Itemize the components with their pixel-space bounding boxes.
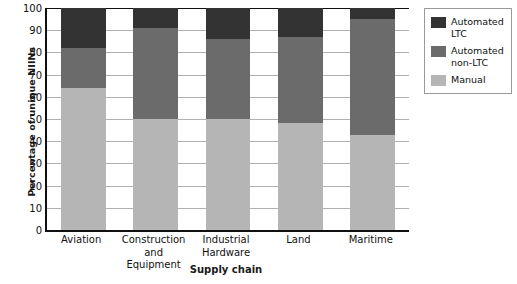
legend-label: Automated LTC bbox=[451, 16, 506, 40]
legend-swatch-icon bbox=[431, 75, 446, 86]
y-tick-label: 40 bbox=[14, 136, 42, 147]
bar-stack[interactable] bbox=[350, 8, 395, 230]
legend-item[interactable]: Manual bbox=[431, 74, 506, 86]
y-tick-label: 60 bbox=[14, 91, 42, 102]
bar-group bbox=[264, 8, 336, 230]
bar-stack[interactable] bbox=[61, 8, 106, 230]
bar-segment[interactable] bbox=[206, 39, 251, 119]
bar-group bbox=[47, 8, 119, 230]
bar-stack[interactable] bbox=[278, 8, 323, 230]
y-tick-label: 30 bbox=[14, 158, 42, 169]
bar-segment[interactable] bbox=[206, 119, 251, 230]
bar-segment[interactable] bbox=[278, 37, 323, 124]
legend-swatch-icon bbox=[431, 46, 446, 57]
bar-segment[interactable] bbox=[350, 135, 395, 230]
legend-swatch-icon bbox=[431, 17, 446, 28]
bar-segment[interactable] bbox=[133, 8, 178, 28]
y-tick-label: 10 bbox=[14, 202, 42, 213]
y-tick-label: 100 bbox=[14, 3, 42, 14]
bar-segment[interactable] bbox=[133, 119, 178, 230]
bar-segment[interactable] bbox=[350, 8, 395, 19]
chart-legend: Automated LTCAutomated non-LTCManual bbox=[424, 8, 512, 94]
bar-stack[interactable] bbox=[206, 8, 251, 230]
stacked-bar-chart: Percentage of unique NIINs 1009080706050… bbox=[0, 0, 517, 284]
bar-group bbox=[192, 8, 264, 230]
y-tick-label: 50 bbox=[14, 114, 42, 125]
bar-group bbox=[119, 8, 191, 230]
plot-area bbox=[45, 8, 409, 232]
bars-layer bbox=[47, 8, 409, 230]
bar-segment[interactable] bbox=[350, 19, 395, 134]
bar-segment[interactable] bbox=[133, 28, 178, 119]
bar-segment[interactable] bbox=[61, 48, 106, 88]
bar-segment[interactable] bbox=[278, 123, 323, 230]
y-axis-tick-labels: 1009080706050403020100 bbox=[14, 0, 42, 284]
bar-segment[interactable] bbox=[206, 8, 251, 39]
bar-stack[interactable] bbox=[133, 8, 178, 230]
y-tick-label: 90 bbox=[14, 25, 42, 36]
bar-segment[interactable] bbox=[278, 8, 323, 37]
legend-label: Manual bbox=[451, 74, 486, 86]
legend-item[interactable]: Automated LTC bbox=[431, 16, 506, 40]
x-axis-title: Supply chain bbox=[45, 264, 407, 275]
bar-segment[interactable] bbox=[61, 8, 106, 48]
y-tick-label: 0 bbox=[14, 225, 42, 236]
bar-segment[interactable] bbox=[61, 88, 106, 230]
legend-label: Automated non-LTC bbox=[451, 45, 506, 69]
y-tick-label: 70 bbox=[14, 69, 42, 80]
legend-item[interactable]: Automated non-LTC bbox=[431, 45, 506, 69]
y-tick-label: 20 bbox=[14, 180, 42, 191]
bar-group bbox=[337, 8, 409, 230]
y-tick-label: 80 bbox=[14, 47, 42, 58]
